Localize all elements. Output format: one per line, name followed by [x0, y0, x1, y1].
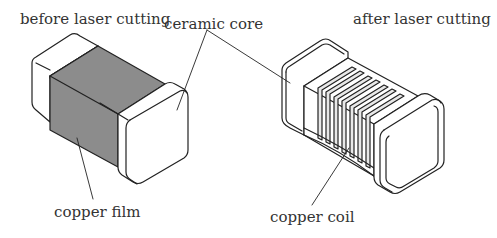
inductor-laser-cutting-diagram: before laser cutting ceramic core after … [0, 0, 497, 238]
leader-copper-coil [312, 148, 349, 205]
label-copper-coil: copper coil [270, 210, 354, 225]
label-after-laser-cutting: after laser cutting [353, 12, 491, 27]
label-ceramic-core: ceramic core [164, 17, 263, 32]
leader-ceramic-right [207, 30, 290, 83]
leader-ceramic-left [177, 30, 207, 110]
chip-before-icon [32, 34, 188, 184]
label-copper-film: copper film [54, 205, 140, 220]
label-before-laser-cutting: before laser cutting [20, 12, 170, 27]
chip-after-icon [282, 39, 444, 194]
